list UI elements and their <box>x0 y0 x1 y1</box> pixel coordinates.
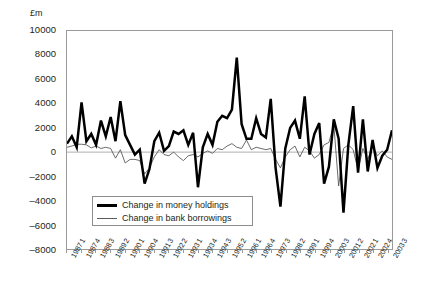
x-axis-tick-mark <box>198 250 199 253</box>
y-axis-tick-label: 0 <box>0 146 62 157</box>
legend-item-money-holdings: Change in money holdings <box>97 199 248 212</box>
x-axis-tick-mark <box>168 250 169 253</box>
series-line <box>67 58 392 213</box>
x-axis-tick-mark <box>139 250 140 253</box>
x-axis-tick-mark <box>183 250 184 253</box>
x-axis-tick-mark <box>256 250 257 253</box>
x-axis-tick-mark <box>227 250 228 253</box>
x-axis-tick-mark <box>154 250 155 253</box>
x-axis-tick-mark <box>300 250 301 253</box>
x-axis-tick-mark <box>359 250 360 253</box>
x-axis-tick-mark <box>81 250 82 253</box>
x-axis-tick-labels: 1987119874198831989219901199041991319922… <box>0 250 427 291</box>
x-axis-tick-mark <box>125 250 126 253</box>
y-axis-tick-labels: 1000080006000400020000–2000–4000–6000–80… <box>0 0 62 291</box>
x-axis-tick-mark <box>66 250 67 253</box>
legend-item-bank-borrowings: Change in bank borrowings <box>97 212 248 225</box>
y-axis-tick-label: –2000 <box>0 171 62 182</box>
legend-label: Change in bank borrowings <box>122 213 232 224</box>
x-axis-tick-mark <box>315 250 316 253</box>
y-axis-tick-label: –6000 <box>0 220 62 231</box>
y-axis-tick-label: 2000 <box>0 122 62 133</box>
x-axis-tick-mark <box>286 250 287 253</box>
y-axis-tick-label: 10000 <box>0 24 62 35</box>
legend: Change in money holdings Change in bank … <box>92 196 253 226</box>
y-axis-tick-label: 8000 <box>0 48 62 59</box>
y-axis-tick-label: 6000 <box>0 73 62 84</box>
chart-container: £m 1000080006000400020000–2000–4000–6000… <box>0 0 427 291</box>
y-axis-tick-label: –4000 <box>0 195 62 206</box>
x-axis-tick-mark <box>373 250 374 253</box>
x-axis-tick-mark <box>242 250 243 253</box>
legend-label: Change in money holdings <box>122 200 229 211</box>
x-axis-tick-mark <box>110 250 111 253</box>
x-axis-tick-mark <box>95 250 96 253</box>
x-axis-tick-mark <box>344 250 345 253</box>
y-axis-tick-label: 4000 <box>0 97 62 108</box>
x-axis-tick-mark <box>330 250 331 253</box>
x-axis-tick-mark <box>388 250 389 253</box>
x-axis-tick-mark <box>212 250 213 253</box>
legend-swatch-thin-line-icon <box>97 218 117 219</box>
x-axis-tick-mark <box>271 250 272 253</box>
legend-swatch-thick-line-icon <box>97 204 117 207</box>
